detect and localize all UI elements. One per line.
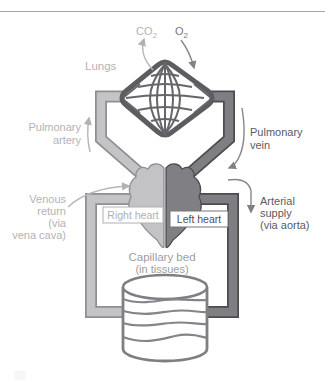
pulmonary-vein-label: Pulmonary vein xyxy=(250,126,303,151)
page-corner-artifact xyxy=(14,371,26,380)
venous-return-label: Venous return (via vena cava) xyxy=(12,193,67,241)
svg-text:(via: (via xyxy=(48,217,67,229)
svg-text:Venous: Venous xyxy=(29,193,66,205)
pulmonary-artery-label: Pulmonary artery xyxy=(28,121,81,146)
o2-label-sub: 2 xyxy=(184,31,189,40)
right-heart-label: Right heart xyxy=(107,209,158,221)
svg-text:Pulmonary: Pulmonary xyxy=(250,126,303,138)
co2-out-arrow xyxy=(143,39,153,70)
o2-label: O2 xyxy=(175,25,189,40)
svg-text:Arterial: Arterial xyxy=(260,195,295,207)
capillary-bed-label: Capillary bed (in tissues) xyxy=(128,251,195,275)
svg-text:supply: supply xyxy=(260,207,292,219)
heart-right-lobe xyxy=(129,164,164,248)
svg-text:Capillary bed: Capillary bed xyxy=(128,251,195,263)
lungs-label: Lungs xyxy=(85,60,117,72)
svg-text:(via aorta): (via aorta) xyxy=(260,219,310,231)
pulmonary-artery-flow-arrow xyxy=(88,118,90,152)
circulatory-system-diagram: Right heart Left heart CO2 O2 Lungs Pulm… xyxy=(0,0,325,383)
o2-in-arrow xyxy=(181,40,194,68)
svg-text:Pulmonary: Pulmonary xyxy=(28,121,81,133)
svg-text:(in tissues): (in tissues) xyxy=(135,263,188,275)
cylinder-top xyxy=(123,275,207,299)
co2-label-main: CO xyxy=(136,25,153,37)
svg-text:vein: vein xyxy=(250,139,270,151)
lungs-outline xyxy=(122,62,212,135)
left-heart-label: Left heart xyxy=(177,213,221,225)
svg-text:vena cava): vena cava) xyxy=(12,229,66,241)
heart-left-lobe xyxy=(166,164,201,248)
co2-label-sub: 2 xyxy=(153,31,158,40)
svg-text:artery: artery xyxy=(53,134,82,146)
co2-label: CO2 xyxy=(136,25,158,40)
arterial-supply-label: Arterial supply (via aorta) xyxy=(260,195,310,231)
capillary-bed-cylinder xyxy=(123,275,207,361)
svg-text:return: return xyxy=(37,205,66,217)
lungs-capillary-network xyxy=(122,62,212,136)
textbook-figure-page: Right heart Left heart CO2 O2 Lungs Pulm… xyxy=(0,0,325,383)
